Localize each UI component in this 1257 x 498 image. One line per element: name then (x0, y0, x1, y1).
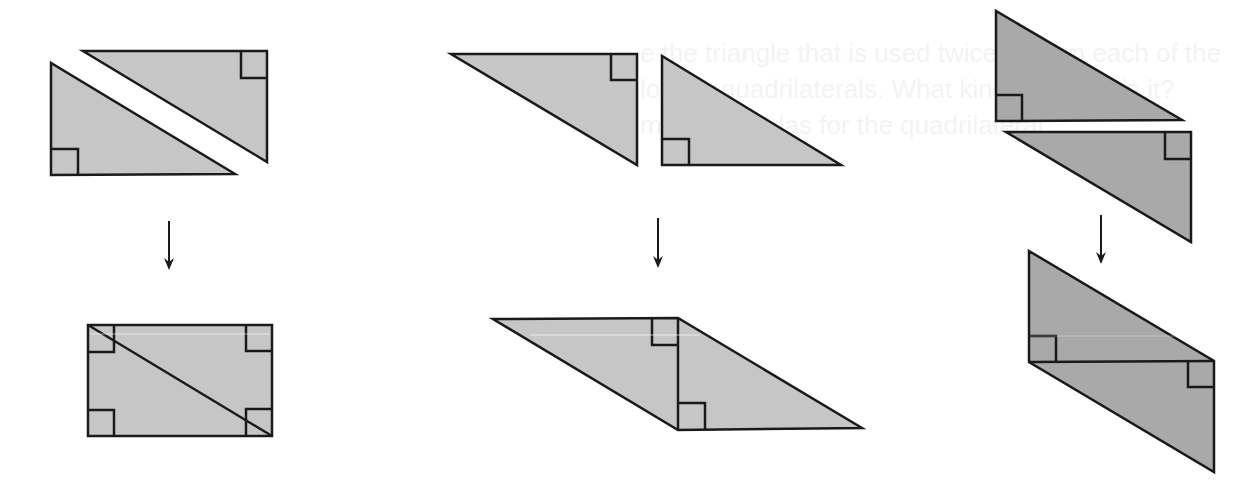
panel-3-bottom-triangle (1006, 132, 1191, 242)
panel-2 (451, 54, 862, 430)
panel-2-left-triangle (451, 54, 637, 165)
panel-3 (996, 11, 1214, 472)
panel-1 (51, 51, 272, 436)
panel-3-top-triangle (996, 11, 1182, 121)
triangle-composition-diagram (0, 0, 1257, 498)
